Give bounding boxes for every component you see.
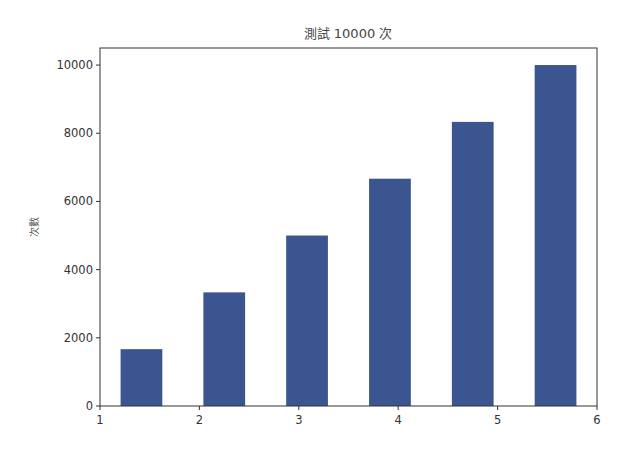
x-tick-label: 5 bbox=[494, 413, 501, 427]
bar bbox=[452, 122, 494, 406]
x-tick-label: 4 bbox=[395, 413, 402, 427]
y-axis: 0200040006000800010000 bbox=[56, 58, 100, 413]
bars bbox=[121, 65, 577, 406]
y-tick-label: 4000 bbox=[64, 263, 93, 277]
x-tick-label: 2 bbox=[196, 413, 203, 427]
x-tick-label: 3 bbox=[295, 413, 302, 427]
bar bbox=[286, 236, 328, 406]
bar bbox=[203, 292, 245, 406]
bar-chart: 測試 10000 次 123456 0200040006000800010000… bbox=[0, 0, 636, 459]
y-tick-label: 8000 bbox=[64, 126, 93, 140]
chart-title: 測試 10000 次 bbox=[304, 26, 393, 41]
bar bbox=[535, 65, 577, 406]
y-tick-label: 6000 bbox=[64, 194, 93, 208]
x-axis: 123456 bbox=[96, 406, 600, 427]
x-tick-label: 1 bbox=[96, 413, 103, 427]
y-tick-label: 0 bbox=[86, 399, 93, 413]
plot-frame bbox=[100, 48, 597, 406]
y-tick-label: 10000 bbox=[56, 58, 93, 72]
y-axis-label: 次數 bbox=[28, 217, 40, 237]
x-tick-label: 6 bbox=[593, 413, 600, 427]
bar bbox=[369, 179, 411, 406]
bar bbox=[121, 349, 163, 406]
y-tick-label: 2000 bbox=[64, 331, 93, 345]
